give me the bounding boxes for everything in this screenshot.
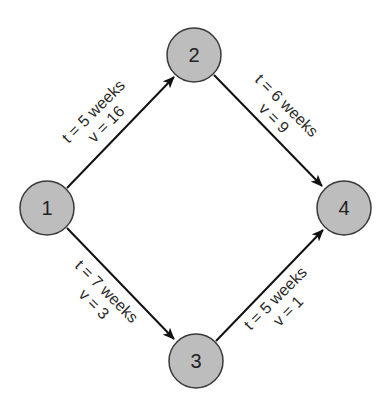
edge-1-3: t = 7 weeks v = 3 [59,228,174,339]
edge-3-4: t = 5 weeks v = 1 [216,230,323,346]
node-1: 1 [20,181,74,235]
edge-2-4: t = 6 weeks v = 9 [214,71,322,186]
node-label: 3 [190,350,201,372]
node-label: 2 [188,44,199,66]
node-3: 3 [169,334,223,388]
arrow-3-to-4 [216,230,323,341]
node-2: 2 [167,28,221,82]
node-label: 4 [338,197,349,219]
node-4: 4 [317,181,371,235]
node-label: 1 [41,197,52,219]
network-diagram: t = 5 weeks v = 16 t = 6 weeks v = 9 t =… [0,0,392,407]
edge-1-2: t = 5 weeks v = 16 [59,77,174,188]
arrow-1-to-3 [67,228,174,339]
